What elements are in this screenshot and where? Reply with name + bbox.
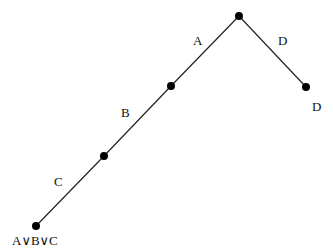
edge-n2-leaf: [36, 156, 104, 226]
leaf-label-abc: A∨B∨C: [12, 233, 58, 248]
edge-label-a: A: [193, 33, 203, 48]
node-n1: [167, 82, 175, 90]
tree-diagram: A B C D D A∨B∨C: [0, 0, 333, 250]
node-root: [235, 12, 243, 20]
edge-root-n1: [171, 16, 239, 86]
node-n2: [100, 152, 108, 160]
node-leaf-d: [302, 83, 310, 91]
node-leaf-abc: [32, 222, 40, 230]
edge-label-c: C: [54, 174, 63, 189]
edge-root-d: [239, 16, 306, 87]
leaf-label-d: D: [312, 99, 321, 114]
edge-label-b: B: [121, 105, 130, 120]
edge-n1-n2: [104, 86, 171, 156]
edge-label-d: D: [278, 33, 287, 48]
